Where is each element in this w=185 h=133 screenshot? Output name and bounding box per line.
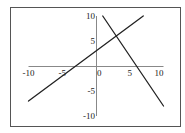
axes <box>29 16 164 116</box>
line-chart: -10-50510105-5-10 <box>0 0 185 133</box>
x-tick-label: 0 <box>97 68 102 78</box>
line-2 <box>103 16 164 106</box>
y-tick-label: 10 <box>86 11 96 21</box>
x-tick-label: -10 <box>23 68 35 78</box>
y-tick-label: -5 <box>88 86 96 96</box>
y-tick-label: 5 <box>91 36 96 46</box>
x-tick-label: 5 <box>128 68 133 78</box>
y-tick-label: -10 <box>83 111 95 121</box>
line-1 <box>29 16 144 101</box>
x-tick-label: 10 <box>155 68 165 78</box>
